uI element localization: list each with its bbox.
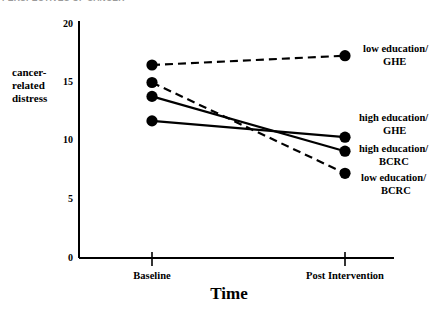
series-annotation-high-education-ghe-line-2: GHE	[383, 125, 406, 136]
data-point-low-education-ghe-baseline	[146, 59, 157, 70]
series-annotation-low-education-ghe-line-2: GHE	[383, 56, 406, 67]
y-tick-label-15: 15	[63, 76, 73, 87]
data-point-high-education-ghe-post	[339, 132, 350, 143]
figure-container: PERSPECTIVES OF CANCER 20 15 10 5 0 canc…	[0, 0, 447, 311]
x-category-label-post-intervention: Post Intervention	[306, 270, 384, 281]
y-tick-label-20: 20	[63, 18, 73, 29]
data-point-low-education-bcrc-baseline	[146, 77, 157, 88]
y-axis-title-line-1: cancer-	[12, 66, 47, 78]
x-category-label-baseline: Baseline	[133, 270, 171, 281]
data-point-high-education-ghe-baseline	[146, 115, 157, 126]
y-axis-title-line-2: related	[12, 79, 45, 91]
data-point-low-education-bcrc-post	[339, 168, 350, 179]
x-axis-title: Time	[210, 284, 248, 303]
data-point-high-education-bcrc-post	[339, 146, 350, 157]
series-line-low-education-bcrc	[152, 83, 345, 174]
series-annotation-low-education-bcrc-line-2: BCRC	[381, 185, 411, 196]
y-tick-label-10: 10	[63, 134, 73, 145]
series-line-low-education-ghe	[152, 56, 345, 65]
series-annotation-low-education-bcrc-line-1: low education/	[361, 172, 427, 183]
y-tick-label-5: 5	[68, 193, 73, 204]
y-tick-label-0: 0	[68, 252, 73, 263]
series-annotation-high-education-ghe-line-1: high education/	[359, 112, 429, 123]
data-point-low-education-ghe-post	[339, 50, 350, 61]
series-annotation-high-education-bcrc-line-1: high education/	[359, 143, 429, 154]
data-point-high-education-bcrc-baseline	[146, 91, 157, 102]
series-annotation-high-education-bcrc-line-2: BCRC	[379, 156, 409, 167]
line-chart: 20 15 10 5 0 cancer- related distress Ba…	[0, 0, 447, 311]
series-annotation-low-education-ghe-line-1: low education/	[363, 43, 429, 54]
y-axis-title-line-3: distress	[12, 92, 48, 104]
